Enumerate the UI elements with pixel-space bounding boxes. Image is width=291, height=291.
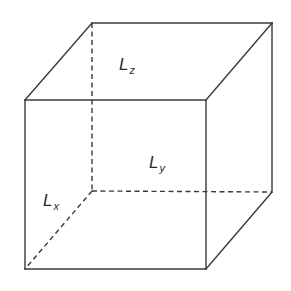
front-face — [25, 100, 206, 269]
label-lz: Lz — [119, 56, 135, 73]
edge-top-left-diagonal — [25, 23, 92, 100]
box-diagram — [0, 0, 291, 291]
label-lz-sub: z — [129, 64, 135, 76]
edge-hidden-back-bottom — [92, 191, 272, 192]
top-and-side-edges — [25, 23, 272, 269]
label-lx: Lx — [43, 192, 59, 209]
label-lx-sub: x — [53, 200, 59, 212]
edge-bottom-right-diagonal — [206, 192, 272, 269]
label-ly-main: L — [149, 153, 158, 172]
hidden-edges — [25, 23, 272, 269]
label-lz-main: L — [119, 55, 128, 74]
label-ly-sub: y — [159, 162, 165, 174]
label-lx-main: L — [43, 191, 52, 210]
edge-top-right-diagonal — [206, 23, 272, 100]
label-ly: Ly — [149, 154, 165, 171]
